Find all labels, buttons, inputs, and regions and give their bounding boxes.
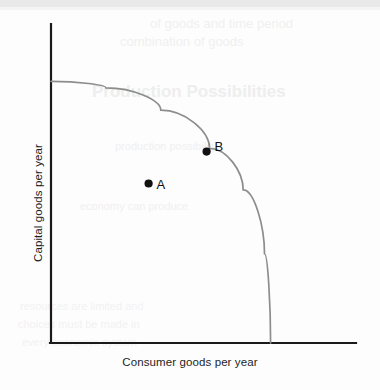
data-point-b-marker (203, 148, 211, 156)
x-axis-title: Consumer goods per year (0, 356, 380, 368)
plot-area: A B (0, 0, 380, 390)
y-axis-title: Capital goods per year (32, 144, 44, 262)
ppf-chart-figure: of goods and time period combination of … (0, 0, 380, 390)
production-possibilities-curve (51, 81, 271, 343)
data-point-b-label: B (215, 139, 224, 154)
data-point-a-marker (145, 179, 153, 187)
data-point-a-label: A (157, 177, 166, 192)
